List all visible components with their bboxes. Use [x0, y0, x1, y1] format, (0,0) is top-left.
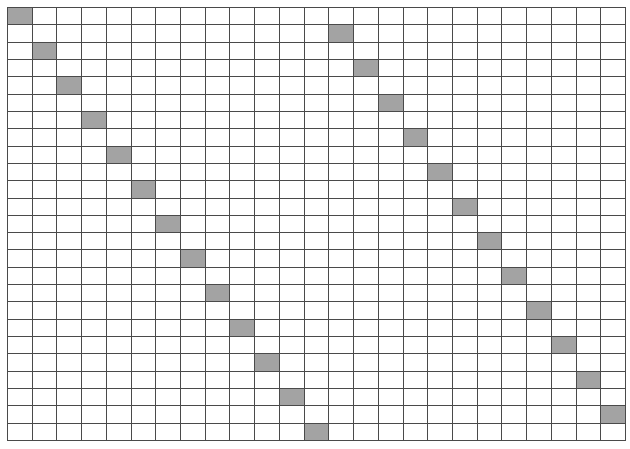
- grid-cell: [131, 198, 156, 215]
- grid-cell: [106, 336, 131, 353]
- grid-cell: [551, 371, 576, 388]
- grid-cell: [600, 319, 625, 336]
- grid-cell: [254, 371, 279, 388]
- grid-cell: [477, 336, 502, 353]
- grid-cell: [501, 249, 526, 266]
- grid-cell: [427, 59, 452, 76]
- grid-cell: [427, 146, 452, 163]
- grid-cell: [501, 146, 526, 163]
- grid-cell: [229, 42, 254, 59]
- grid-cell: [600, 423, 625, 440]
- grid-cell: [477, 128, 502, 145]
- grid-cell: [180, 336, 205, 353]
- grid-cell: [452, 128, 477, 145]
- grid-cell: [279, 249, 304, 266]
- grid-cell: [205, 232, 230, 249]
- grid-cell: [501, 284, 526, 301]
- grid-cell: [501, 336, 526, 353]
- grid-cell: [452, 180, 477, 197]
- grid-cell: [131, 42, 156, 59]
- grid-cell: [81, 198, 106, 215]
- grid-cell: [229, 388, 254, 405]
- grid-cell: [378, 405, 403, 422]
- grid-cell: [106, 215, 131, 232]
- grid-cell: [576, 111, 601, 128]
- grid-cell: [477, 24, 502, 41]
- grid-cell: [551, 7, 576, 24]
- grid-cell: [477, 405, 502, 422]
- grid-cell-filled: [501, 267, 526, 284]
- grid-cell: [353, 146, 378, 163]
- grid-cell: [353, 7, 378, 24]
- grid-cell: [279, 111, 304, 128]
- grid-cell: [452, 249, 477, 266]
- grid-cell: [600, 371, 625, 388]
- grid-cell: [526, 24, 551, 41]
- grid-cell: [452, 7, 477, 24]
- grid-cell: [452, 405, 477, 422]
- grid-cell: [403, 371, 428, 388]
- grid-cell: [378, 388, 403, 405]
- grid-cell: [81, 405, 106, 422]
- grid-cell: [56, 232, 81, 249]
- grid-cell: [452, 336, 477, 353]
- grid-cell: [600, 128, 625, 145]
- grid-cell: [353, 24, 378, 41]
- grid-cell: [131, 284, 156, 301]
- grid-cell: [155, 42, 180, 59]
- grid-cell: [131, 267, 156, 284]
- grid-cell: [279, 232, 304, 249]
- grid-cell: [403, 423, 428, 440]
- grid-cell: [279, 284, 304, 301]
- grid-cell: [106, 388, 131, 405]
- grid-cell: [155, 76, 180, 93]
- grid-cell: [254, 198, 279, 215]
- grid-cell: [56, 198, 81, 215]
- grid-cell: [403, 336, 428, 353]
- grid-cell: [155, 180, 180, 197]
- grid-cell: [378, 42, 403, 59]
- grid-cell-filled: [254, 353, 279, 370]
- grid-cell: [254, 232, 279, 249]
- grid-cell: [131, 215, 156, 232]
- grid-cell: [7, 76, 32, 93]
- grid-cell: [452, 42, 477, 59]
- grid-cell: [328, 7, 353, 24]
- grid-cell: [81, 319, 106, 336]
- grid-cell: [229, 336, 254, 353]
- grid-cell: [205, 163, 230, 180]
- grid-cell: [131, 423, 156, 440]
- grid-cell: [403, 42, 428, 59]
- grid-cell: [403, 76, 428, 93]
- grid-cell: [106, 59, 131, 76]
- grid-cell: [279, 59, 304, 76]
- grid-cell: [304, 267, 329, 284]
- grid-cell: [7, 180, 32, 197]
- grid-cell: [551, 42, 576, 59]
- grid-cell: [180, 405, 205, 422]
- grid-cell: [131, 405, 156, 422]
- grid-cell: [501, 353, 526, 370]
- grid-cell: [427, 319, 452, 336]
- grid-cell: [501, 301, 526, 318]
- grid-cell: [551, 163, 576, 180]
- grid-cell: [279, 42, 304, 59]
- grid-cell: [600, 111, 625, 128]
- grid-cell: [328, 249, 353, 266]
- grid-cell: [477, 301, 502, 318]
- grid-cell: [106, 24, 131, 41]
- grid-cell: [254, 7, 279, 24]
- grid-cell: [131, 232, 156, 249]
- grid-cell: [229, 405, 254, 422]
- grid-cell: [403, 180, 428, 197]
- grid-cell: [576, 388, 601, 405]
- grid-cell: [32, 336, 57, 353]
- grid-cell: [452, 111, 477, 128]
- grid-cell: [56, 146, 81, 163]
- grid-cell: [304, 146, 329, 163]
- grid-cell: [254, 249, 279, 266]
- grid-cell: [304, 24, 329, 41]
- grid-cell: [254, 215, 279, 232]
- grid-cell: [180, 7, 205, 24]
- grid-cell: [526, 94, 551, 111]
